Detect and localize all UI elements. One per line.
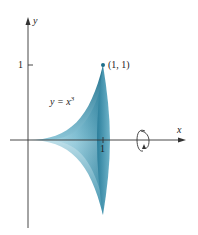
x-axis-arrow-icon <box>178 138 186 143</box>
diagram-canvas <box>0 0 198 235</box>
x-tick-label: 1 <box>100 143 105 154</box>
point-1-1-marker <box>101 63 105 67</box>
y-tick-label: 1 <box>18 59 23 70</box>
x-axis-label: x <box>177 124 181 135</box>
curve-exponent: 3 <box>71 95 75 103</box>
point-label: (1, 1) <box>108 59 130 70</box>
curve-label: y = x3 <box>50 95 74 107</box>
solid-of-revolution <box>28 63 110 215</box>
curve-equation: y = x <box>50 96 71 107</box>
y-axis-arrow-icon <box>26 17 31 25</box>
rotation-arrow-icon <box>137 130 149 151</box>
y-axis-label: y <box>33 15 37 26</box>
